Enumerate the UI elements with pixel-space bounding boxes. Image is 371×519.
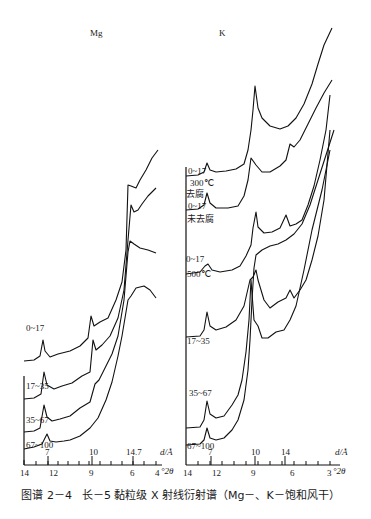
k-bottom-unit: °2θ	[333, 466, 346, 476]
mg-bottom-tick-14: 14	[20, 468, 30, 478]
k-bottom-tick-3: 3	[327, 468, 332, 478]
mg-bottom-tick-6: 6	[130, 468, 135, 478]
k-curve-35-67	[186, 150, 330, 428]
caption-text: 长－5 黏粒级 X 射线衍射谱（Mg－、K－饱和风干）	[82, 489, 340, 502]
mg-bottom-unit: °2θ	[161, 466, 174, 476]
mg-curve-35-67	[24, 241, 156, 432]
k-label-300c: 300℃	[190, 178, 214, 188]
k-label-0-17-c: 0~17	[186, 254, 205, 264]
mg-bottom-tick-12: 12	[49, 468, 58, 478]
k-top-tick-10: 10	[251, 447, 261, 457]
k-label-weiqufu: 未去腐	[187, 213, 214, 224]
k-label-qufu: 去腐	[186, 188, 204, 199]
k-bottom-tick-9: 9	[251, 468, 256, 478]
k-label-17-35: 17~35	[187, 336, 210, 346]
mg-x-ticks	[24, 456, 156, 465]
k-curve-0-17-untreated	[186, 80, 332, 210]
k-bottom-tick-6: 6	[290, 468, 295, 478]
k-bottom-tick-12: 12	[212, 468, 221, 478]
figure-caption: 图谱 2－4长－5 黏粒级 X 射线衍射谱（Mg－、K－饱和风干）	[0, 486, 371, 502]
k-curve-17-35	[186, 130, 330, 337]
k-x-ticks	[198, 456, 330, 465]
k-panel-title: K	[219, 28, 226, 38]
k-top-unit: d/Å	[335, 447, 348, 457]
caption-number: 图谱 2－4	[21, 489, 72, 502]
k-panel: K 7 10 14 d/Å 14 12 9 6 3 °2θ	[183, 28, 348, 478]
k-top-tick-14: 14	[281, 447, 291, 457]
mg-label-0-17: 0~17	[26, 323, 45, 333]
mg-top-tick-14-7: 14.7	[126, 447, 142, 457]
mg-top-unit: d/Å	[160, 447, 173, 457]
xrd-figure: Mg 7 10 14.7 d/Å 14 12 9 6	[0, 0, 371, 519]
k-label-500c: 500℃	[187, 269, 211, 279]
mg-panel-title: Mg	[90, 28, 103, 38]
mg-bottom-tick-9: 9	[89, 468, 94, 478]
mg-bottom-tick-4: 4	[155, 468, 160, 478]
k-bottom-tick-14: 14	[183, 468, 193, 478]
k-label-35-67: 35~67	[189, 388, 212, 398]
mg-panel: Mg 7 10 14.7 d/Å 14 12 9 6	[20, 28, 174, 478]
mg-curve-17-35	[24, 188, 156, 399]
mg-label-35-67: 35~67	[26, 415, 49, 425]
k-curve-0-17-300c	[186, 28, 332, 176]
mg-top-tick-10: 10	[89, 447, 99, 457]
